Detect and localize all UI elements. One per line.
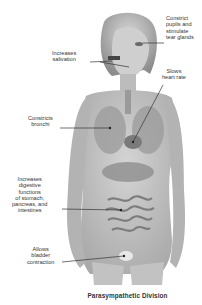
right-leg [130,262,164,285]
label-line: pupils and [166,21,194,27]
label-line: contraction [27,259,54,265]
salivary-gland [108,56,120,60]
label-salivation: Increases salivation [52,50,76,63]
face [112,27,149,78]
stomach [102,162,154,182]
label-line: intestines [12,207,47,213]
label-bladder: Allows bladder contraction [27,246,54,265]
label-pupils: Constrict pupils and stimulate tear glan… [166,15,194,40]
label-line: bronchi [28,121,53,127]
label-line: heart rate [162,74,186,80]
label-line: tear glands [166,34,194,40]
label-digestion: Increases digestive functions of stomach… [12,176,47,214]
label-bronchi: Constricts bronchi [28,115,53,128]
left-leg [92,262,124,285]
trachea [125,90,131,114]
left-lung [94,106,126,154]
eye [135,42,143,46]
label-line: salivation [52,56,76,62]
figure-caption: Parasympathetic Division [60,292,195,299]
label-heart: Slows heart rate [162,68,186,81]
